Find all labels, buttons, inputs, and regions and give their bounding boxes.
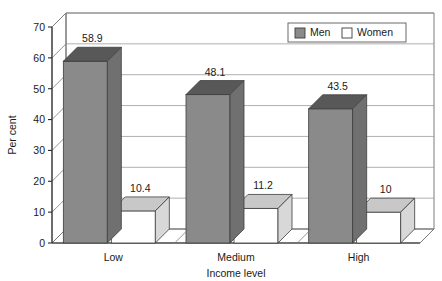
- y-tick-label-30: 30: [33, 144, 45, 156]
- legend-label-men: Men: [310, 26, 331, 38]
- legend: MenWomen: [288, 23, 406, 42]
- bar-men-medium: [186, 81, 244, 243]
- bar-men-medium-front: [186, 95, 230, 243]
- value-label-men-high: 43.5: [327, 80, 348, 92]
- depth-tick-60: [52, 44, 66, 58]
- bar-chart: 010203040506070Per cent58.910.448.111.24…: [0, 0, 442, 281]
- y-tick-label-20: 20: [33, 175, 45, 187]
- bars: [63, 47, 414, 243]
- x-tick-label-high: High: [348, 251, 370, 263]
- floor-divider-right: [420, 229, 434, 243]
- x-tick-label-low: Low: [104, 251, 124, 263]
- y-tick-label-50: 50: [33, 83, 45, 95]
- depth-tick-70: [52, 13, 66, 27]
- bar-men-high-front: [309, 109, 353, 243]
- x-axis-title: Income level: [207, 267, 266, 279]
- bar-men-low: [63, 47, 121, 243]
- value-label-men-medium: 48.1: [205, 66, 226, 78]
- y-tick-label-60: 60: [33, 52, 45, 64]
- bar-men-low-side: [107, 47, 121, 243]
- y-tick-label-40: 40: [33, 113, 45, 125]
- legend-swatch-women: [342, 28, 352, 38]
- value-label-women-high: 10: [380, 183, 392, 195]
- y-tick-label-0: 0: [39, 237, 45, 249]
- value-label-women-medium: 11.2: [253, 179, 273, 191]
- x-tick-label-medium: Medium: [217, 251, 255, 263]
- bar-men-high-side: [353, 95, 367, 243]
- bar-men-high: [309, 95, 367, 243]
- legend-swatch-men: [295, 28, 305, 38]
- y-tick-label-10: 10: [33, 206, 45, 218]
- y-axis-title: Per cent: [6, 115, 18, 154]
- value-label-women-low: 10.4: [130, 182, 151, 194]
- bar-men-medium-side: [230, 81, 244, 243]
- value-label-men-low: 58.9: [82, 32, 103, 44]
- legend-label-women: Women: [357, 26, 393, 38]
- bar-men-low-front: [63, 61, 107, 243]
- y-tick-label-70: 70: [33, 21, 45, 33]
- chart-canvas: 010203040506070Per cent58.910.448.111.24…: [0, 0, 442, 281]
